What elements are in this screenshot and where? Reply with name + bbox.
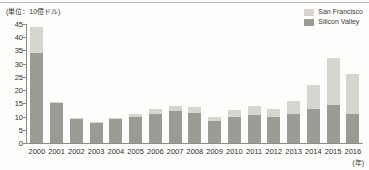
x-tick-label: 2014 xyxy=(304,147,323,156)
x-axis-labels: 2000200120022003200420052006200720082009… xyxy=(27,147,363,156)
y-tick-label: 0 xyxy=(19,139,23,148)
bar-column[interactable] xyxy=(287,24,300,143)
x-tick-label: 2016 xyxy=(343,147,362,156)
bar-column[interactable] xyxy=(109,24,122,143)
bar-segment-silicon-valley xyxy=(248,115,261,143)
x-tick-label: 2005 xyxy=(126,147,145,156)
bar-segment-san-francisco xyxy=(307,85,320,109)
x-tick-label: 2012 xyxy=(264,147,283,156)
bar-column[interactable] xyxy=(228,24,241,143)
legend-label-san-francisco: San Francisco xyxy=(318,8,363,16)
bar-column[interactable] xyxy=(169,24,182,143)
bar-segment-silicon-valley xyxy=(307,109,320,143)
figure-top-rule xyxy=(0,2,369,3)
bar-segment-silicon-valley xyxy=(109,119,122,143)
bar-column[interactable] xyxy=(346,24,359,143)
bar-segment-silicon-valley xyxy=(70,119,83,143)
plot-area: 051015202530354045 xyxy=(26,24,363,144)
bar-segment-silicon-valley xyxy=(188,113,201,143)
x-tick-label: 2001 xyxy=(47,147,66,156)
bar-segment-silicon-valley xyxy=(267,117,280,143)
bar-column[interactable] xyxy=(149,24,162,143)
y-tick-label: 5 xyxy=(19,125,23,134)
bar-column[interactable] xyxy=(129,24,142,143)
bar-segment-silicon-valley xyxy=(90,123,103,143)
bar-segment-san-francisco xyxy=(248,106,261,115)
bar-column[interactable] xyxy=(307,24,320,143)
bar-segment-silicon-valley xyxy=(30,53,43,143)
bar-column[interactable] xyxy=(327,24,340,143)
y-tick-label: 40 xyxy=(15,33,23,42)
y-tick-label: 15 xyxy=(15,99,23,108)
bar-column[interactable] xyxy=(50,24,63,143)
bar-segment-silicon-valley xyxy=(50,103,63,143)
x-tick-label: 2008 xyxy=(185,147,204,156)
x-tick-label: 2007 xyxy=(166,147,185,156)
bar-segment-silicon-valley xyxy=(169,111,182,143)
y-tick-mark xyxy=(23,143,27,144)
bar-segment-silicon-valley xyxy=(149,114,162,143)
bar-column[interactable] xyxy=(208,24,221,143)
bar-column[interactable] xyxy=(267,24,280,143)
legend-swatch-san-francisco xyxy=(304,9,314,16)
bar-segment-silicon-valley xyxy=(228,117,241,143)
bar-column[interactable] xyxy=(248,24,261,143)
x-tick-label: 2013 xyxy=(284,147,303,156)
y-tick-label: 30 xyxy=(15,59,23,68)
bar-column[interactable] xyxy=(188,24,201,143)
y-tick-label: 25 xyxy=(15,72,23,81)
bar-series-group xyxy=(27,24,363,143)
legend-item-san-francisco: San Francisco xyxy=(304,8,363,16)
chart-figure: (単位：10億ドル) San Francisco Silicon Valley … xyxy=(0,0,369,170)
x-tick-label: 2011 xyxy=(245,147,264,156)
bar-segment-san-francisco xyxy=(327,58,340,104)
x-axis-unit-label: (年) xyxy=(352,157,364,167)
bar-segment-san-francisco xyxy=(287,101,300,114)
bar-column[interactable] xyxy=(70,24,83,143)
bar-segment-san-francisco xyxy=(346,74,359,114)
bar-column[interactable] xyxy=(30,24,43,143)
x-tick-label: 2000 xyxy=(27,147,46,156)
y-axis-unit-label: (単位：10億ドル) xyxy=(6,6,60,16)
y-tick-label: 20 xyxy=(15,86,23,95)
bar-segment-silicon-valley xyxy=(327,105,340,143)
bar-column[interactable] xyxy=(90,24,103,143)
bar-segment-silicon-valley xyxy=(129,117,142,143)
bar-segment-san-francisco xyxy=(228,110,241,117)
x-tick-label: 2009 xyxy=(205,147,224,156)
y-tick-label: 35 xyxy=(15,46,23,55)
x-axis-line xyxy=(26,143,363,144)
bar-segment-san-francisco xyxy=(267,109,280,117)
x-tick-label: 2006 xyxy=(146,147,165,156)
bar-segment-silicon-valley xyxy=(208,121,221,143)
bar-segment-silicon-valley xyxy=(287,114,300,143)
x-tick-label: 2002 xyxy=(67,147,86,156)
x-tick-label: 2004 xyxy=(106,147,125,156)
x-tick-label: 2003 xyxy=(87,147,106,156)
bar-segment-silicon-valley xyxy=(346,114,359,143)
y-tick-label: 45 xyxy=(15,20,23,29)
x-tick-label: 2015 xyxy=(324,147,343,156)
x-tick-label: 2010 xyxy=(225,147,244,156)
y-tick-label: 10 xyxy=(15,112,23,121)
bar-segment-san-francisco xyxy=(30,27,43,53)
